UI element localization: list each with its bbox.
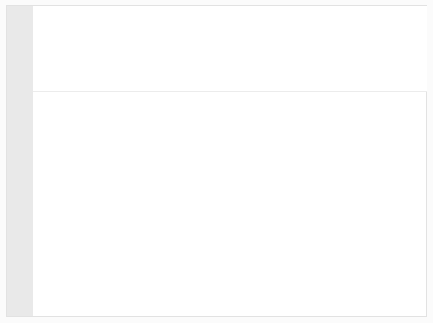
- monthly-trends-line: [245, 116, 421, 292]
- bottom-row: [33, 92, 427, 316]
- monthly-trends-plot: [245, 116, 421, 292]
- dashboard-page: [0, 0, 433, 323]
- dashboard-content: [33, 6, 427, 316]
- profit-ratio-title: [41, 14, 47, 25]
- monthly-trends-card: [209, 92, 427, 316]
- profit-ratio-card: [33, 6, 427, 92]
- products-card: [33, 92, 209, 316]
- products-x-axis: [103, 296, 203, 306]
- sidebar-band: [7, 6, 33, 316]
